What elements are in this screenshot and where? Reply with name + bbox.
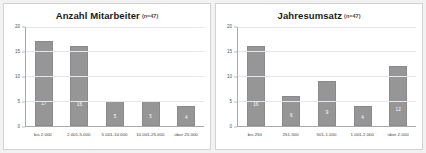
chart-title-left-n: (n=47) bbox=[142, 13, 158, 19]
bar[interactable]: 4 bbox=[177, 106, 195, 126]
chart-title-right-n: (n=47) bbox=[344, 13, 360, 19]
gridline bbox=[238, 27, 416, 28]
chart-title-left: Anzahl Mitarbeiter(n=47) bbox=[4, 4, 210, 21]
bar-value-label: 4 bbox=[185, 116, 188, 121]
axes-right: 1669412 bbox=[237, 27, 416, 128]
axes-left: 1716554 bbox=[25, 27, 204, 128]
gridline bbox=[26, 51, 204, 52]
bar[interactable]: 9 bbox=[318, 81, 336, 126]
charts-page: Anzahl Mitarbeiter(n=47) 05101520 171655… bbox=[0, 0, 426, 153]
y-tick-label: 15 bbox=[227, 49, 232, 54]
x-tick-label: 501-1.000 bbox=[309, 133, 345, 149]
gridline bbox=[26, 27, 204, 28]
x-tick-label: 2.001-5.000 bbox=[61, 133, 97, 149]
bar[interactable]: 16 bbox=[247, 46, 265, 126]
bar-value-label: 4 bbox=[361, 116, 364, 121]
x-tick-label: über 25.000 bbox=[168, 133, 204, 149]
chart-panel-jahresumsatz: Jahresumsatz(n=47) 05101520 1669412 bis … bbox=[215, 3, 423, 150]
plot-area-right: 05101520 1669412 bis 250251-500501-1.000… bbox=[220, 27, 416, 150]
x-tick-label: 10.001-25.000 bbox=[132, 133, 168, 149]
bar-value-label: 12 bbox=[396, 108, 401, 113]
bar-value-label: 9 bbox=[326, 111, 329, 116]
x-tick-label: bis 250 bbox=[237, 133, 273, 149]
bar[interactable]: 5 bbox=[106, 101, 124, 126]
x-tick-label: 1.001-2.000 bbox=[344, 133, 380, 149]
y-tick-label: 20 bbox=[227, 24, 232, 29]
y-tick-label: 10 bbox=[227, 74, 232, 79]
gridline bbox=[238, 101, 416, 102]
y-tick-label: 5 bbox=[17, 100, 20, 105]
y-axis-left: 05101520 bbox=[8, 27, 22, 128]
y-tick-label: 0 bbox=[229, 125, 232, 130]
chart-title-left-text: Anzahl Mitarbeiter bbox=[56, 10, 140, 21]
bar-value-label: 6 bbox=[290, 114, 293, 119]
chart-panel-anzahl-mitarbeiter: Anzahl Mitarbeiter(n=47) 05101520 171655… bbox=[3, 3, 211, 150]
y-tick-label: 0 bbox=[17, 125, 20, 130]
x-axis-labels-left: bis 2.0002.001-5.0005.001-10.00010.001-2… bbox=[25, 129, 204, 149]
y-tick-label: 10 bbox=[15, 74, 20, 79]
y-axis-right: 05101520 bbox=[220, 27, 234, 128]
bar-value-label: 5 bbox=[149, 115, 152, 120]
bar-value-label: 5 bbox=[114, 115, 117, 120]
bar-value-label: 16 bbox=[77, 103, 82, 108]
bar[interactable]: 5 bbox=[142, 101, 160, 126]
y-tick-label: 20 bbox=[15, 24, 20, 29]
gridline bbox=[238, 51, 416, 52]
bar-value-label: 16 bbox=[253, 103, 258, 108]
bar-value-label: 17 bbox=[41, 102, 46, 107]
bar[interactable]: 4 bbox=[354, 106, 372, 126]
x-tick-label: über 2.000 bbox=[380, 133, 416, 149]
chart-title-right-text: Jahresumsatz bbox=[278, 10, 343, 21]
y-tick-label: 5 bbox=[229, 100, 232, 105]
x-tick-label: 5.001-10.000 bbox=[97, 133, 133, 149]
x-tick-label: 251-500 bbox=[273, 133, 309, 149]
x-axis-labels-right: bis 250251-500501-1.0001.001-2.000über 2… bbox=[237, 129, 416, 149]
gridline bbox=[26, 76, 204, 77]
chart-title-right: Jahresumsatz(n=47) bbox=[216, 4, 422, 21]
gridline bbox=[238, 76, 416, 77]
gridline bbox=[26, 101, 204, 102]
y-tick-label: 15 bbox=[15, 49, 20, 54]
bar[interactable]: 16 bbox=[70, 46, 88, 126]
bar[interactable]: 17 bbox=[35, 41, 53, 126]
plot-area-left: 05101520 1716554 bis 2.0002.001-5.0005.0… bbox=[8, 27, 204, 150]
x-tick-label: bis 2.000 bbox=[25, 133, 61, 149]
